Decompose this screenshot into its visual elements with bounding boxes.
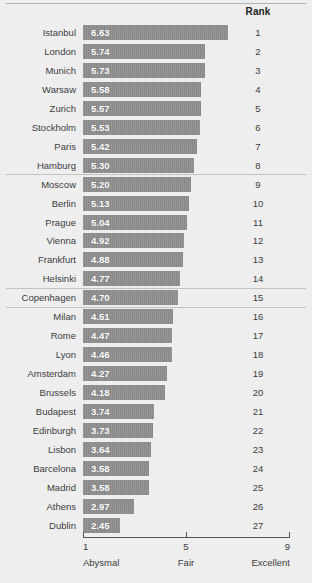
city-label: Stockholm bbox=[0, 122, 76, 133]
city-label: Vienna bbox=[0, 235, 76, 246]
bar-value-label: 3.73 bbox=[91, 425, 110, 436]
rank-value: 10 bbox=[232, 198, 284, 209]
bar-value-label: 5.57 bbox=[91, 103, 110, 114]
city-label: Barcelona bbox=[0, 463, 76, 474]
table-row: Vienna4.9212 bbox=[0, 232, 312, 251]
city-label: Berlin bbox=[0, 198, 76, 209]
bar: 3.58 bbox=[83, 461, 149, 476]
bar: 4.92 bbox=[83, 233, 184, 248]
bar-value-label: 4.18 bbox=[91, 387, 110, 398]
bar-value-label: 3.58 bbox=[91, 482, 110, 493]
bar-value-label: 3.74 bbox=[91, 406, 110, 417]
table-row: Berlin5.1310 bbox=[0, 195, 312, 214]
axis-tick-word: Excellent bbox=[220, 557, 290, 568]
table-row: Zurich5.575 bbox=[0, 100, 312, 119]
rank-value: 12 bbox=[232, 235, 284, 246]
table-row: Amsterdam4.2719 bbox=[0, 365, 312, 384]
bar-value-label: 5.73 bbox=[91, 65, 110, 76]
bar: 5.74 bbox=[83, 44, 205, 59]
table-row: Edinburgh3.7322 bbox=[0, 422, 312, 441]
bar: 4.51 bbox=[83, 309, 173, 324]
bar: 4.18 bbox=[83, 385, 165, 400]
table-row: Moscow5.209 bbox=[0, 176, 312, 195]
rank-value: 11 bbox=[232, 217, 284, 228]
bar-value-label: 4.27 bbox=[91, 368, 110, 379]
bar-value-label: 4.77 bbox=[91, 273, 110, 284]
bar: 3.74 bbox=[83, 404, 154, 419]
bar: 4.47 bbox=[83, 328, 172, 343]
bar: 2.45 bbox=[83, 518, 120, 533]
bar: 5.20 bbox=[83, 177, 191, 192]
rank-value: 7 bbox=[232, 141, 284, 152]
bar-value-label: 5.30 bbox=[91, 160, 110, 171]
bar: 4.70 bbox=[83, 290, 178, 305]
bar: 5.13 bbox=[83, 196, 189, 211]
rank-value: 27 bbox=[232, 520, 284, 531]
city-label: Lisbon bbox=[0, 444, 76, 455]
table-row: Madrid3.5825 bbox=[0, 479, 312, 498]
rank-value: 19 bbox=[232, 368, 284, 379]
table-row: Stockholm5.536 bbox=[0, 119, 312, 138]
rank-value: 18 bbox=[232, 349, 284, 360]
table-row: London5.742 bbox=[0, 43, 312, 62]
group-separator bbox=[6, 307, 306, 308]
city-label: Lyon bbox=[0, 349, 76, 360]
table-row: Frankfurt4.8813 bbox=[0, 251, 312, 270]
rank-value: 24 bbox=[232, 463, 284, 474]
bar-value-label: 5.13 bbox=[91, 198, 110, 209]
table-row: Copenhagen4.7015 bbox=[0, 289, 312, 308]
bar: 4.77 bbox=[83, 271, 180, 286]
rank-value: 6 bbox=[232, 122, 284, 133]
city-label: Amsterdam bbox=[0, 368, 76, 379]
rank-value: 22 bbox=[232, 425, 284, 436]
bar-value-label: 4.70 bbox=[91, 292, 110, 303]
axis-tick-word: Fair bbox=[151, 557, 221, 568]
bar: 6.63 bbox=[83, 25, 228, 40]
bar: 5.58 bbox=[83, 82, 201, 97]
bar: 5.53 bbox=[83, 120, 200, 135]
city-label: Dublin bbox=[0, 520, 76, 531]
bar: 4.46 bbox=[83, 347, 172, 362]
bar: 4.88 bbox=[83, 252, 183, 267]
bar-value-label: 6.63 bbox=[91, 27, 110, 38]
bar-value-label: 3.58 bbox=[91, 463, 110, 474]
bar-value-label: 3.64 bbox=[91, 444, 110, 455]
axis-tick-number: 9 bbox=[260, 541, 290, 552]
table-row: Warsaw5.584 bbox=[0, 81, 312, 100]
bar: 5.42 bbox=[83, 139, 197, 154]
bar-value-label: 2.97 bbox=[91, 501, 110, 512]
rank-value: 3 bbox=[232, 65, 284, 76]
table-row: Athens2.9726 bbox=[0, 498, 312, 517]
rank-value: 20 bbox=[232, 387, 284, 398]
rank-value: 1 bbox=[232, 27, 284, 38]
bar-value-label: 4.92 bbox=[91, 235, 110, 246]
rank-value: 8 bbox=[232, 160, 284, 171]
bar-chart: Rank Istanbul6.631London5.742Munich5.733… bbox=[0, 0, 312, 583]
rank-value: 13 bbox=[232, 254, 284, 265]
bar: 5.04 bbox=[83, 215, 187, 230]
table-row: Lyon4.4618 bbox=[0, 346, 312, 365]
city-label: Copenhagen bbox=[0, 292, 76, 303]
rank-value: 5 bbox=[232, 103, 284, 114]
group-separator bbox=[6, 288, 306, 289]
rank-value: 2 bbox=[232, 46, 284, 57]
table-row: Brussels4.1820 bbox=[0, 384, 312, 403]
rank-value: 4 bbox=[232, 84, 284, 95]
rank-value: 14 bbox=[232, 273, 284, 284]
table-row: Prague5.0411 bbox=[0, 214, 312, 233]
table-row: Milan4.5116 bbox=[0, 308, 312, 327]
bar-value-label: 5.53 bbox=[91, 122, 110, 133]
bar: 5.30 bbox=[83, 158, 194, 173]
bar-value-label: 5.20 bbox=[91, 179, 110, 190]
city-label: Munich bbox=[0, 65, 76, 76]
city-label: Madrid bbox=[0, 482, 76, 493]
bar: 2.97 bbox=[83, 499, 134, 514]
rank-value: 16 bbox=[232, 311, 284, 322]
city-label: Athens bbox=[0, 501, 76, 512]
rank-value: 26 bbox=[232, 501, 284, 512]
bar-value-label: 5.58 bbox=[91, 84, 110, 95]
city-label: Milan bbox=[0, 311, 76, 322]
table-row: Istanbul6.631 bbox=[0, 24, 312, 43]
chart-rows: Istanbul6.631London5.742Munich5.733Warsa… bbox=[0, 0, 312, 530]
city-label: Hamburg bbox=[0, 160, 76, 171]
